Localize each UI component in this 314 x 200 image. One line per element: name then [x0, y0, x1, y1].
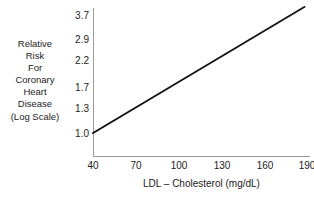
- y-tick-label-1-7: 1.7: [0, 82, 89, 93]
- x-tick-label-40: 40: [73, 160, 113, 171]
- y-tick-label-3-7: 3.7: [0, 10, 89, 21]
- x-tick-label-190: 190: [287, 160, 314, 171]
- x-tick-label-130: 130: [202, 160, 242, 171]
- x-tick-label-160: 160: [245, 160, 285, 171]
- x-tick-label-70: 70: [116, 160, 156, 171]
- chart-figure: Relative Risk For Coronary Heart Disease…: [0, 0, 314, 200]
- y-tick-label-2-2: 2.2: [0, 55, 89, 66]
- x-tick-label-100: 100: [159, 160, 199, 171]
- x-axis-title: LDL – Cholesterol (mg/dL): [93, 178, 310, 189]
- data-series-line: [93, 8, 310, 157]
- plot-area: [93, 8, 310, 157]
- y-tick-label-2-9: 2.9: [0, 34, 89, 45]
- x-axis-ticks: 40 70 100 130 160 190: [0, 160, 314, 174]
- y-tick-label-1-0: 1.0: [0, 128, 89, 139]
- y-tick-label-1-3: 1.3: [0, 103, 89, 114]
